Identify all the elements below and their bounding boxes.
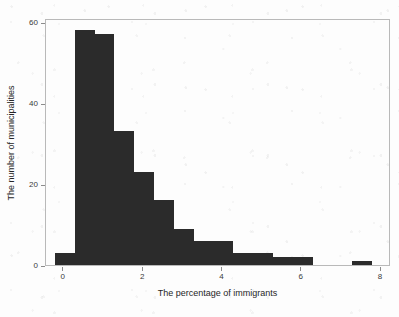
histogram-bars (46, 20, 389, 265)
x-tick-label: 4 (211, 272, 231, 281)
histogram-bar (352, 261, 372, 265)
y-axis-title: The number of municipalities (6, 85, 16, 200)
histogram-bar (174, 229, 194, 265)
y-tick-mark (41, 266, 45, 267)
histogram-bar (114, 131, 134, 265)
x-tick-label: 0 (53, 272, 73, 281)
x-tick-mark (62, 267, 63, 271)
histogram-bar (134, 172, 154, 265)
y-tick-mark (41, 185, 45, 186)
x-tick-mark (142, 267, 143, 271)
y-tick-label: 60 (12, 18, 38, 27)
x-tick-mark (380, 267, 381, 271)
histogram-figure: 02468 0204060 The percentage of immigran… (0, 0, 399, 317)
x-tick-label: 2 (132, 272, 152, 281)
histogram-bar (194, 241, 214, 265)
histogram-bar (154, 200, 174, 265)
histogram-bar (233, 253, 253, 265)
x-tick-label: 8 (370, 272, 390, 281)
histogram-bar (293, 257, 313, 265)
histogram-bar (214, 241, 234, 265)
y-tick-mark (41, 104, 45, 105)
x-axis-title: The percentage of immigrants (45, 288, 390, 298)
histogram-bar (75, 30, 95, 265)
y-tick-mark (41, 23, 45, 24)
x-tick-mark (300, 267, 301, 271)
histogram-bar (55, 253, 75, 265)
histogram-bar (95, 34, 115, 265)
y-tick-label: 0 (12, 261, 38, 270)
histogram-bar (273, 257, 293, 265)
histogram-bar (253, 253, 273, 265)
x-tick-mark (221, 267, 222, 271)
x-tick-label: 6 (291, 272, 311, 281)
